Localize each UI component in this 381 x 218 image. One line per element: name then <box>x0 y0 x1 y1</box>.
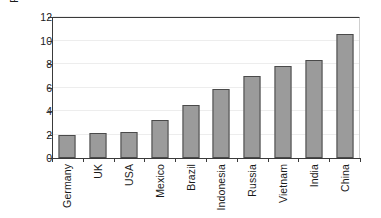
bar-slot <box>298 17 329 158</box>
x-tick-mark <box>206 158 207 162</box>
x-tick-mark <box>144 158 145 162</box>
bar-slot <box>206 17 237 158</box>
x-tick-mark <box>52 158 53 162</box>
bar-uk[interactable] <box>90 133 107 158</box>
x-tick-mark <box>329 158 330 162</box>
x-tick-mark <box>114 158 115 162</box>
y-axis: 024681012 <box>0 0 52 175</box>
y-tick-label: 0 <box>6 153 52 163</box>
x-tick-label-brazil: Brazil <box>186 164 196 191</box>
y-tick-label: 6 <box>6 83 52 93</box>
x-axis-ticks <box>52 158 361 163</box>
x-tick-label-usa: USA <box>124 164 134 186</box>
bar-chart: Percentage 024681012 GermanyUKUSAMexicoB… <box>0 0 381 218</box>
x-label-slot: UK <box>83 164 114 218</box>
bar-china[interactable] <box>336 34 353 158</box>
x-tick-mark <box>268 158 269 162</box>
bar-russia[interactable] <box>244 76 261 158</box>
y-tick-label: 10 <box>6 36 52 46</box>
x-tick-label-india: India <box>309 164 319 187</box>
x-tick-label-mexico: Mexico <box>155 164 165 198</box>
x-tick-label-indonesia: Indonesia <box>216 164 226 210</box>
x-label-slot: India <box>298 164 329 218</box>
bar-slot <box>268 17 299 158</box>
bar-slot <box>237 17 268 158</box>
x-tick-mark <box>175 158 176 162</box>
x-label-slot: Brazil <box>175 164 206 218</box>
x-tick-label-vietnam: Vietnam <box>278 164 288 203</box>
bar-slot <box>83 17 114 158</box>
bar-vietnam[interactable] <box>274 66 291 158</box>
bar-slot <box>175 17 206 158</box>
y-tick-label: 4 <box>6 106 52 116</box>
bar-brazil[interactable] <box>182 105 199 158</box>
x-label-slot: Mexico <box>144 164 175 218</box>
y-tick-label: 8 <box>6 59 52 69</box>
x-label-slot: Germany <box>52 164 83 218</box>
bar-india[interactable] <box>305 60 322 158</box>
x-label-slot: Russia <box>237 164 268 218</box>
x-tick-label-china: China <box>340 164 350 192</box>
bar-slot <box>52 17 83 158</box>
bar-slot <box>329 17 360 158</box>
x-tick-mark <box>237 158 238 162</box>
x-axis-labels: GermanyUKUSAMexicoBrazilIndonesiaRussiaV… <box>52 164 360 218</box>
y-tick-label: 12 <box>6 12 52 22</box>
x-tick-mark <box>360 158 361 162</box>
x-label-slot: Vietnam <box>268 164 299 218</box>
bar-indonesia[interactable] <box>213 89 230 158</box>
bar-slot <box>144 17 175 158</box>
x-tick-label-germany: Germany <box>62 164 72 208</box>
x-label-slot: USA <box>114 164 145 218</box>
x-tick-mark <box>83 158 84 162</box>
x-tick-mark <box>298 158 299 162</box>
bar-usa[interactable] <box>120 132 137 158</box>
bar-germany[interactable] <box>59 135 76 159</box>
x-tick-label-uk: UK <box>93 164 103 179</box>
x-tick-label-russia: Russia <box>247 164 257 197</box>
x-label-slot: Indonesia <box>206 164 237 218</box>
x-label-slot: China <box>329 164 360 218</box>
bar-mexico[interactable] <box>151 120 168 158</box>
y-tick-label: 2 <box>6 130 52 140</box>
bar-series <box>52 17 360 158</box>
bar-slot <box>114 17 145 158</box>
